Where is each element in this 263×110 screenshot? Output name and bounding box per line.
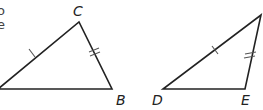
cropped-text: o e l [0,3,5,46]
vertex-label-e: E [241,92,250,108]
triangle-2-outline [163,15,261,89]
triangle-1-outline [0,22,112,89]
vertex-label-d: D [152,92,163,108]
geometry-diagram: o e l C B D E [0,0,263,110]
cropped-text-line-1: o [0,3,5,18]
vertex-label-c: C [73,3,83,19]
cropped-text-line-2: e [0,17,5,32]
double-tick-mark [244,52,256,58]
triangle-def: D E [152,15,261,108]
vertex-label-b: B [116,92,126,108]
single-tick-mark [29,49,35,57]
triangle-abc: C B [0,3,126,108]
